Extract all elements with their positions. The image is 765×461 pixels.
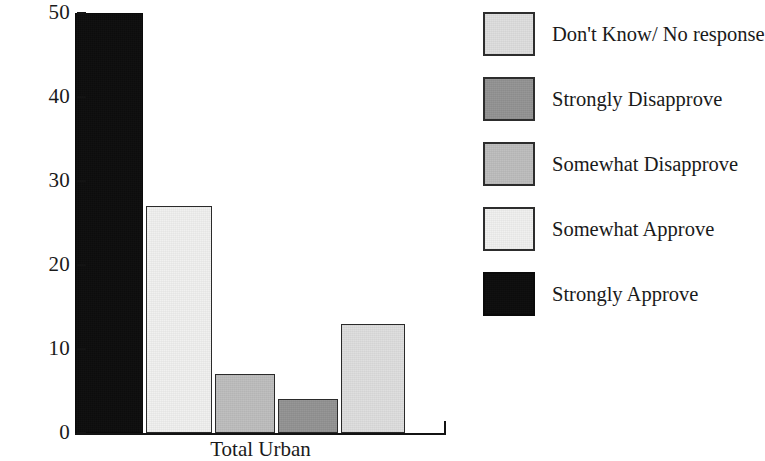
legend-label: Somewhat Disapprove (552, 153, 738, 175)
legend-item: Somewhat Disapprove (483, 141, 742, 187)
bars-layer (0, 0, 470, 461)
legend-swatch (483, 77, 535, 121)
chart-legend: Don't Know/ No responseStrongly Disappro… (483, 11, 742, 317)
y-tick-mark (77, 432, 86, 434)
legend-swatch (483, 142, 535, 186)
legend-item: Don't Know/ No response (483, 11, 742, 57)
bar (75, 13, 143, 433)
y-tick-mark (77, 12, 86, 14)
legend-item: Strongly Disapprove (483, 76, 742, 122)
legend-swatch (483, 272, 535, 316)
legend-swatch (483, 207, 535, 251)
bar (278, 399, 338, 433)
y-tick-mark (77, 348, 86, 350)
y-tick-mark (77, 264, 86, 266)
bar (341, 324, 405, 433)
legend-item: Somewhat Approve (483, 206, 742, 252)
x-axis-category-label: Total Urban (75, 437, 446, 461)
legend-label: Strongly Approve (552, 283, 698, 305)
bar (215, 374, 275, 433)
legend-item: Strongly Approve (483, 271, 742, 317)
legend-swatch (483, 12, 535, 56)
bar (146, 206, 212, 433)
y-tick-mark (77, 180, 86, 182)
legend-label: Don't Know/ No response (552, 23, 765, 45)
legend-label: Somewhat Approve (552, 218, 714, 240)
legend-label: Strongly Disapprove (552, 88, 722, 110)
plot-area: 01020304050 Total Urban (0, 0, 470, 461)
y-tick-mark (77, 96, 86, 98)
